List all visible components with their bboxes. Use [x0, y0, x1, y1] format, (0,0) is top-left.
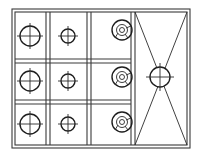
large-burner-icon	[17, 111, 43, 137]
large-burner-column	[17, 23, 43, 137]
ring-burner-icon	[112, 20, 132, 40]
small-burner-column	[58, 26, 78, 134]
large-burner-icon	[17, 23, 43, 49]
ring-burner-icon	[112, 67, 132, 87]
ring-burner-icon	[112, 112, 132, 132]
small-burner-icon	[58, 26, 78, 46]
right-panel	[135, 12, 187, 145]
vertical-dividers	[46, 12, 135, 145]
center-burner-icon	[146, 63, 174, 91]
small-burner-icon	[58, 114, 78, 134]
stove-layout-diagram	[0, 0, 200, 159]
small-burner-icon	[58, 71, 78, 91]
large-burner-icon	[17, 68, 43, 94]
ring-burner-column	[112, 20, 132, 132]
